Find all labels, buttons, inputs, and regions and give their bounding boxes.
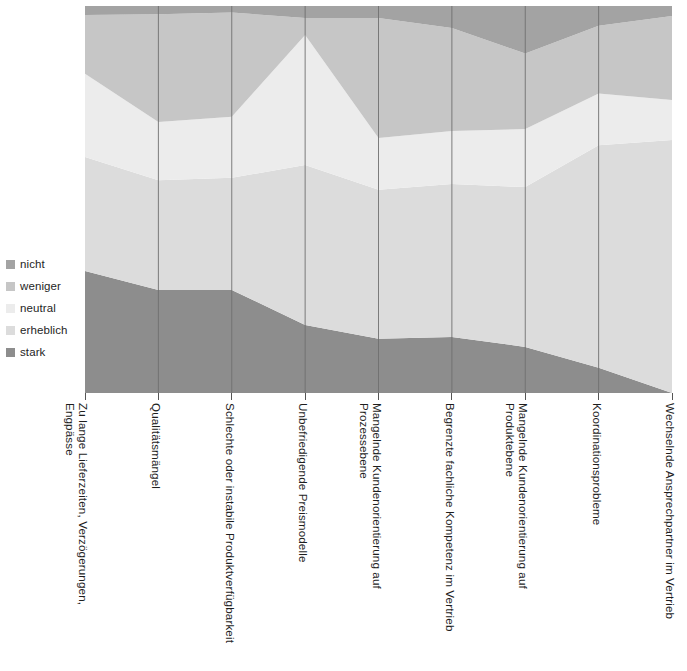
x-axis-tick (672, 393, 673, 400)
x-axis: Zu lange Lieferzeiten, Verzögerungen, En… (85, 393, 672, 671)
x-axis-tick (85, 393, 86, 400)
legend-swatch-weniger (6, 282, 15, 291)
x-axis-label: Begrenzte fachliche Kompetenz im Vertrie… (443, 403, 456, 653)
legend-item-stark[interactable]: stark (6, 346, 82, 358)
legend-item-erheblich[interactable]: erheblich (6, 324, 82, 336)
chart-legend: nicht weniger neutral erheblich stark (6, 258, 82, 358)
stacked-area-chart: nicht weniger neutral erheblich stark Zu… (0, 0, 687, 671)
x-axis-tick (231, 393, 232, 400)
x-axis-label: Mangelnde Kundenorientierung auf Produkt… (503, 403, 530, 653)
x-axis-label: Zu lange Lieferzeiten, Verzögerungen, En… (63, 403, 90, 653)
area-series-svg (85, 6, 672, 393)
x-axis-label-text: Qualitätsmängel (150, 403, 163, 653)
x-axis-label-text: Zu lange Lieferzeiten, Verzögerungen, En… (63, 403, 90, 653)
x-axis-label: Wechselnde Ansprechpartner im Vertrieb (664, 403, 677, 641)
legend-item-neutral[interactable]: neutral (6, 302, 82, 314)
x-axis-label: Qualitätsmängel (150, 403, 163, 653)
legend-swatch-erheblich (6, 326, 15, 335)
x-axis-label-text: Koordinationsprobleme (590, 403, 603, 653)
legend-swatch-nicht (6, 260, 15, 269)
x-axis-tick (158, 393, 159, 400)
x-axis-label-text: Schlechte oder instabile Produktverfügba… (223, 403, 236, 653)
x-axis-label-text: Wechselnde Ansprechpartner im Vertrieb (664, 403, 677, 641)
x-axis-label: Koordinationsprobleme (590, 403, 603, 653)
x-axis-label-text: Mangelnde Kundenorientierung auf Prozess… (357, 403, 384, 653)
x-axis-tick (525, 393, 526, 400)
legend-swatch-neutral (6, 304, 15, 313)
x-axis-label-text: Mangelnde Kundenorientierung auf Produkt… (503, 403, 530, 653)
legend-item-nicht[interactable]: nicht (6, 258, 82, 270)
x-axis-tick (305, 393, 306, 400)
x-axis-label-text: Begrenzte fachliche Kompetenz im Vertrie… (443, 403, 456, 653)
legend-label-erheblich: erheblich (20, 324, 68, 336)
x-axis-label: Unbefriedigende Preismodelle (297, 403, 310, 653)
x-axis-tick (598, 393, 599, 400)
plot-area (85, 6, 672, 393)
x-axis-label-text: Unbefriedigende Preismodelle (297, 403, 310, 653)
legend-swatch-stark (6, 348, 15, 357)
legend-label-weniger: weniger (20, 280, 61, 292)
x-axis-label: Mangelnde Kundenorientierung auf Prozess… (357, 403, 384, 653)
x-axis-label: Schlechte oder instabile Produktverfügba… (223, 403, 236, 653)
x-axis-tick (378, 393, 379, 400)
legend-label-neutral: neutral (20, 302, 56, 314)
legend-label-stark: stark (20, 346, 45, 358)
legend-label-nicht: nicht (20, 258, 45, 270)
legend-item-weniger[interactable]: weniger (6, 280, 82, 292)
x-axis-tick (451, 393, 452, 400)
